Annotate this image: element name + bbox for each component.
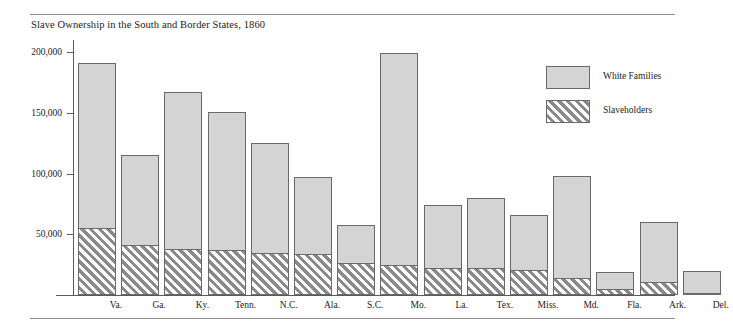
bar-segment-slaveholders	[467, 268, 505, 295]
bar-group	[683, 271, 721, 295]
legend-swatch-solid-gray	[546, 66, 590, 89]
y-tick-mark	[67, 113, 74, 114]
y-tick-mark	[67, 174, 74, 175]
y-tick-mark	[67, 234, 74, 235]
bar-segment-slaveholders	[596, 289, 634, 295]
bar-segment-slaveholders	[121, 245, 159, 295]
bar-segment-slaveholders	[380, 265, 418, 295]
legend-swatch-diagonal-hatch	[546, 100, 590, 123]
y-tick-label: 50,000	[36, 229, 62, 239]
bar-group	[510, 215, 548, 295]
bar-group	[640, 222, 678, 295]
x-axis-line	[56, 295, 675, 296]
bar-group	[337, 225, 375, 295]
y-tick-label: 100,000	[31, 169, 62, 179]
bar-segment-slaveholders	[640, 282, 678, 295]
bar-segment-slaveholders	[683, 293, 721, 295]
bar-group	[251, 143, 289, 295]
legend-label: White Families	[603, 71, 661, 81]
bar-segment-white-families	[380, 53, 418, 295]
bar-segment-slaveholders	[78, 228, 116, 295]
y-tick-label: 200,000	[31, 47, 62, 57]
bar-segment-slaveholders	[251, 253, 289, 296]
chart-title: Slave Ownership in the South and Border …	[31, 19, 265, 30]
bar-segment-slaveholders	[553, 278, 591, 295]
bar-group	[208, 112, 246, 295]
x-tick-label: Del.	[691, 300, 733, 310]
bar-group	[294, 177, 332, 295]
bar-group	[596, 272, 634, 295]
bar-group	[78, 63, 116, 295]
bottom-divider-rule	[30, 318, 675, 319]
bar-group	[553, 176, 591, 295]
bar-group	[467, 198, 505, 295]
bar-group	[380, 53, 418, 295]
bar-segment-white-families	[683, 271, 721, 295]
y-tick-label: 150,000	[31, 108, 62, 118]
bar-group	[164, 92, 202, 295]
bar-segment-slaveholders	[164, 249, 202, 295]
bar-segment-slaveholders	[337, 263, 375, 295]
bar-segment-slaveholders	[424, 268, 462, 295]
bar-group	[424, 205, 462, 295]
y-tick-mark	[67, 52, 74, 53]
bar-group	[121, 155, 159, 295]
bar-segment-slaveholders	[208, 250, 246, 295]
bar-segment-slaveholders	[510, 270, 548, 296]
bar-segment-slaveholders	[294, 254, 332, 295]
legend-label: Slaveholders	[603, 105, 652, 115]
top-divider-rule	[30, 14, 675, 15]
